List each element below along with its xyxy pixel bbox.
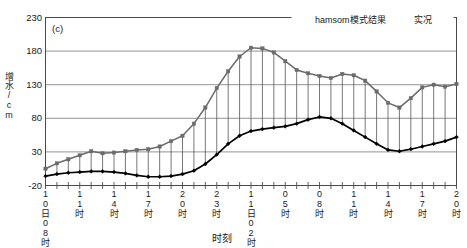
x-tick-label: 20时 xyxy=(452,189,461,218)
chart-figure xyxy=(0,0,467,248)
y-tick-label: 230 xyxy=(14,12,42,23)
x-tick-label: 11日02时 xyxy=(246,189,255,247)
x-tick-label: 17时 xyxy=(417,189,426,218)
legend-item-label: 实况 xyxy=(414,13,432,26)
x-tick-label: 14时 xyxy=(109,189,118,218)
x-tick-label: 20时 xyxy=(178,189,187,218)
y-tick-label: 30 xyxy=(14,146,42,157)
y-tick-label: -20 xyxy=(14,180,42,191)
x-tick-label: 05时 xyxy=(280,189,289,218)
x-axis-title: 时刻 xyxy=(212,230,232,245)
x-tick-label: 10日08时 xyxy=(41,189,50,247)
y-tick-label: 130 xyxy=(14,79,42,90)
y-tick-label: 80 xyxy=(14,112,42,123)
droplines xyxy=(46,48,457,177)
y-tick-label: 180 xyxy=(14,45,42,56)
panel-label: (c) xyxy=(52,23,63,34)
x-tick-label: 08时 xyxy=(315,189,324,218)
x-tick-label: 11时 xyxy=(75,189,84,218)
x-tick-label: 14时 xyxy=(383,189,392,218)
legend-item-label: hamsom模式结果 xyxy=(315,13,386,26)
x-tick-label: 23时 xyxy=(212,189,221,218)
x-tick-label: 11时 xyxy=(349,189,358,218)
x-tick-label: 17时 xyxy=(143,189,152,218)
